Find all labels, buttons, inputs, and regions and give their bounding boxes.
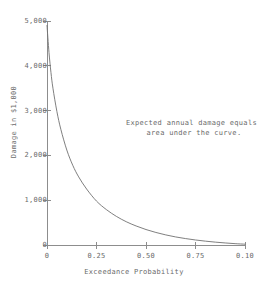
chart-annotation: Expected annual damage equals area under… <box>126 118 262 138</box>
annotation-line-2: area under the curve. <box>126 128 262 138</box>
damage-curve-plot <box>0 0 268 290</box>
x-axis-title: Exceedance Probability <box>0 268 268 276</box>
y-axis-title: Damage in $1,000 <box>10 62 18 182</box>
exceedance-probability-chart: 5,0004,0003,0002,0001,000000.250.500.750… <box>0 0 268 290</box>
annotation-line-1: Expected annual damage equals <box>126 118 262 128</box>
